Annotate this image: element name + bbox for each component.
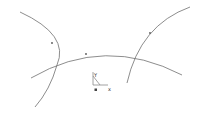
ucs-icon: Y x	[93, 72, 111, 92]
ucs-y-label: Y	[93, 72, 98, 78]
right-arc[interactable]	[127, 7, 190, 83]
ucs-x-label: x	[108, 86, 111, 92]
ucs-origin-marker	[95, 89, 98, 92]
arc-entities	[20, 7, 190, 107]
right-arc-node[interactable]	[149, 32, 151, 34]
left-arc-node[interactable]	[51, 42, 53, 44]
left-arc[interactable]	[20, 12, 60, 107]
middle-arc-node[interactable]	[85, 53, 87, 55]
drawing-canvas[interactable]: Y x	[0, 0, 201, 113]
